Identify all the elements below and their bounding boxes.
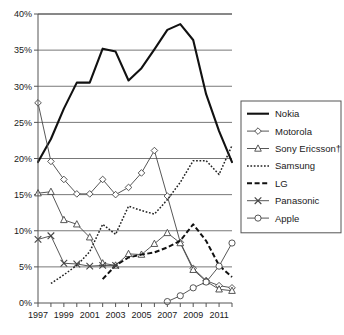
data-point-2012 bbox=[229, 240, 235, 246]
chart-legend: NokiaMotorolaSony Ericsson†SamsungLGPana… bbox=[241, 101, 341, 233]
y-tick-label-10: 10% bbox=[14, 226, 32, 236]
y-tick-label-25: 25% bbox=[14, 118, 32, 128]
data-point-2008 bbox=[177, 293, 183, 299]
data-point-2010 bbox=[203, 279, 209, 285]
y-tick-label-40: 40% bbox=[14, 9, 32, 19]
x-tick-label-1999: 1999 bbox=[54, 310, 74, 320]
x-tick-label-2001: 2001 bbox=[80, 310, 100, 320]
y-tick-label-20: 20% bbox=[14, 154, 32, 164]
x-tick-label-2011: 2011 bbox=[209, 310, 228, 320]
chart-root: 0%5%10%15%20%25%30%35%40% 19971999200120… bbox=[0, 0, 344, 335]
data-point-2011 bbox=[216, 263, 222, 269]
y-tick-label-15: 15% bbox=[14, 190, 32, 200]
market-share-line-chart: 0%5%10%15%20%25%30%35%40% 19971999200120… bbox=[0, 0, 344, 335]
y-tick-label-5: 5% bbox=[19, 262, 32, 272]
legend-label: Samsung bbox=[275, 160, 315, 171]
data-point-2009 bbox=[190, 285, 196, 291]
legend-label: Apple bbox=[275, 213, 299, 224]
legend-label: Sony Ericsson† bbox=[275, 143, 341, 154]
y-tick-label-35: 35% bbox=[14, 45, 32, 55]
data-point-2007 bbox=[164, 298, 170, 304]
legend-label: Panasonic bbox=[275, 195, 320, 206]
x-tick-label-2009: 2009 bbox=[183, 310, 203, 320]
legend-label: LG bbox=[275, 178, 288, 189]
x-tick-label-1997: 1997 bbox=[28, 310, 48, 320]
legend-swatch-marker bbox=[255, 215, 261, 221]
y-tick-label-0: 0% bbox=[19, 298, 32, 308]
x-tick-label-2005: 2005 bbox=[131, 310, 151, 320]
x-tick-label-2007: 2007 bbox=[157, 310, 177, 320]
legend-label: Nokia bbox=[275, 108, 300, 119]
y-tick-label-30: 30% bbox=[14, 82, 32, 92]
x-tick-label-2003: 2003 bbox=[106, 310, 126, 320]
legend-label: Motorola bbox=[275, 126, 313, 137]
